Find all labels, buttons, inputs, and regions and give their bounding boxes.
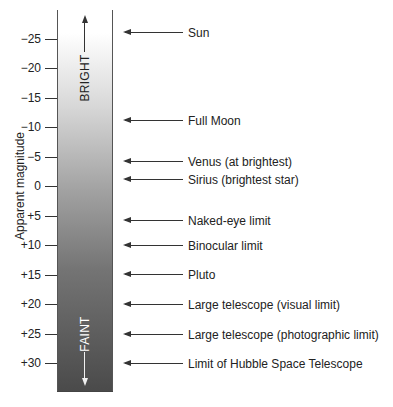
object-label: Limit of Hubble Space Telescope (188, 357, 363, 371)
object-label: Large telescope (visual limit) (188, 298, 340, 312)
y-tick-label: −25 (21, 32, 41, 46)
arrow-left-icon (123, 301, 131, 307)
pointer-arrow (125, 334, 183, 335)
object-label: Large telescope (photographic limit) (188, 328, 379, 342)
y-tick (45, 275, 57, 276)
arrow-left-icon (123, 176, 131, 182)
y-tick-label: −20 (21, 61, 41, 75)
y-tick (45, 127, 57, 128)
object-label: Binocular limit (188, 239, 263, 253)
bar-bottom-edge (57, 391, 113, 392)
pointer-arrow (125, 179, 183, 180)
y-tick-label: −5 (27, 150, 41, 164)
y-tick (45, 216, 57, 217)
y-tick (45, 186, 57, 187)
y-tick-label: +30 (21, 356, 41, 370)
y-tick-label: +20 (21, 297, 41, 311)
y-tick (45, 363, 57, 364)
pointer-arrow (125, 220, 183, 221)
object-label: Naked-eye limit (188, 214, 271, 228)
pointer-arrow (125, 304, 183, 305)
object-label: Full Moon (188, 114, 241, 128)
y-tick (45, 68, 57, 69)
y-tick-label: +25 (21, 327, 41, 341)
faint-label: FAINT (78, 316, 92, 352)
bright-arrow-line (84, 22, 85, 52)
bright-arrow-up-icon (82, 15, 88, 23)
object-label: Venus (at brightest) (188, 155, 292, 169)
pointer-arrow (125, 120, 183, 121)
object-label: Sun (188, 26, 209, 40)
y-tick-label: 0 (34, 179, 41, 193)
pointer-arrow (125, 245, 183, 246)
y-tick (45, 304, 57, 305)
arrow-left-icon (123, 158, 131, 164)
y-axis-title: Apparent magnitude (13, 132, 27, 240)
y-tick (45, 334, 57, 335)
arrow-left-icon (123, 360, 131, 366)
arrow-left-icon (123, 242, 131, 248)
bright-label: BRIGHT (78, 54, 92, 101)
faint-arrow-down-icon (82, 378, 88, 386)
y-tick (45, 157, 57, 158)
arrow-left-icon (123, 217, 131, 223)
y-tick-label: +5 (27, 209, 41, 223)
arrow-left-icon (123, 331, 131, 337)
y-tick-label: +15 (21, 268, 41, 282)
object-label: Sirius (brightest star) (188, 173, 299, 187)
y-tick-label: −15 (21, 91, 41, 105)
y-tick-label: −10 (21, 120, 41, 134)
pointer-arrow (125, 274, 183, 275)
arrow-left-icon (123, 117, 131, 123)
faint-arrow-line (84, 352, 85, 380)
y-tick-label: +10 (21, 238, 41, 252)
y-tick (45, 39, 57, 40)
object-label: Pluto (188, 268, 215, 282)
pointer-arrow (125, 363, 183, 364)
arrow-left-icon (123, 271, 131, 277)
pointer-arrow (125, 161, 183, 162)
y-tick (45, 245, 57, 246)
y-tick (45, 98, 57, 99)
pointer-arrow (125, 32, 183, 33)
arrow-left-icon (123, 29, 131, 35)
